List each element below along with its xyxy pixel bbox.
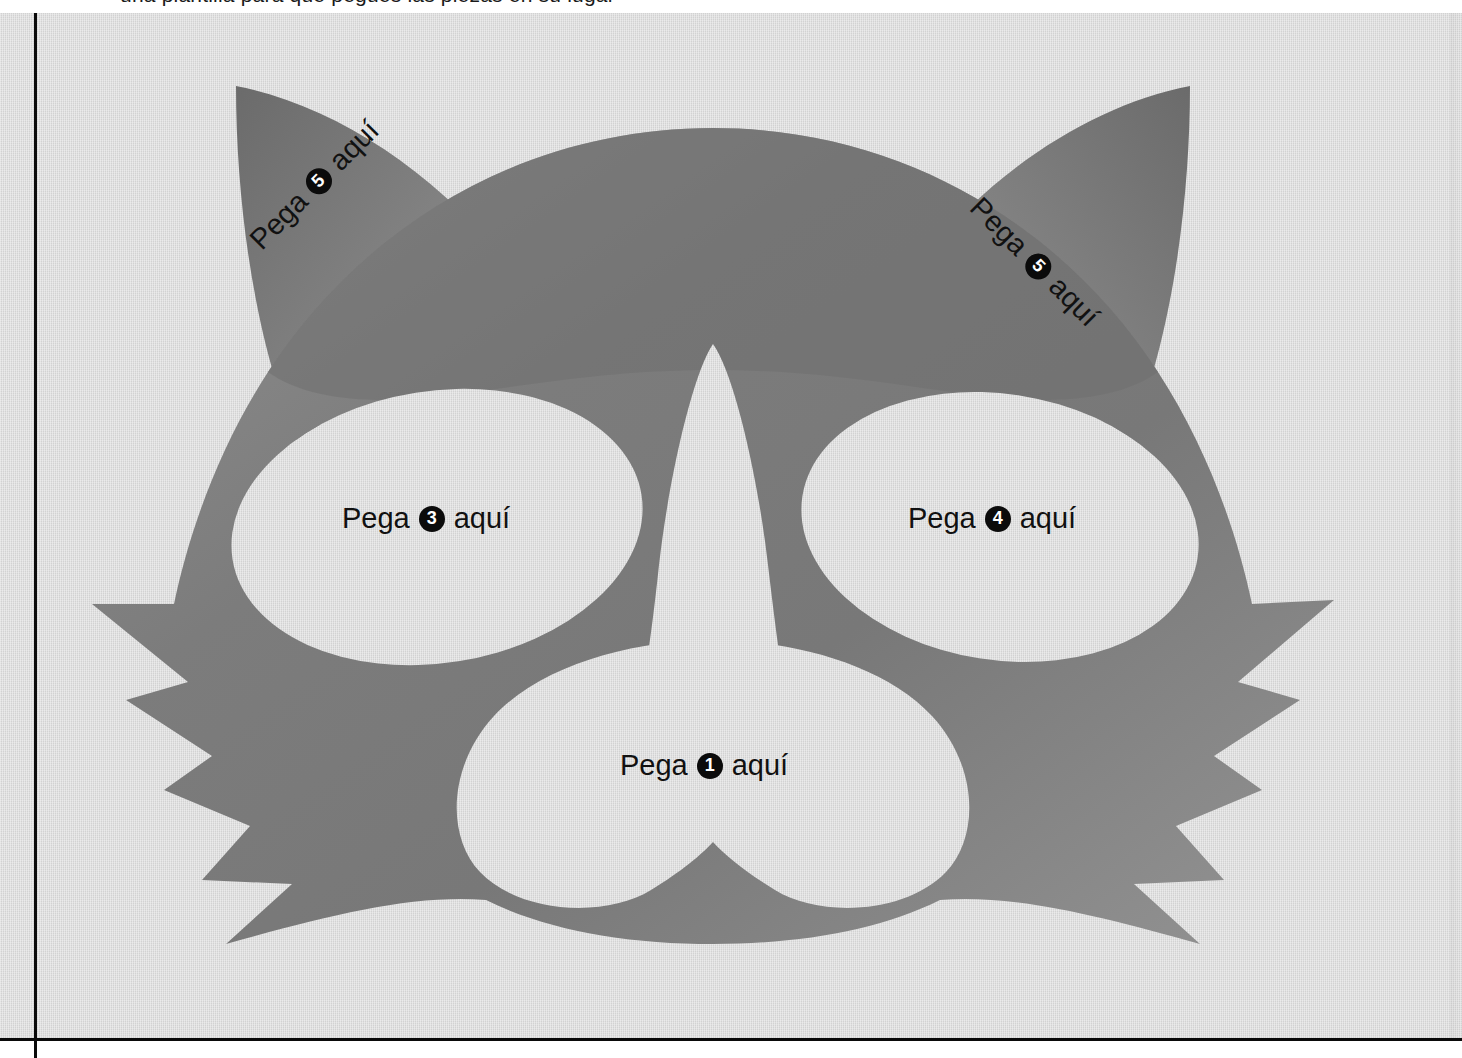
label-prefix: Pega: [620, 751, 688, 780]
page-root: una plantilla para que pegues las piezas…: [0, 0, 1462, 1058]
number-badge-1: 1: [697, 753, 723, 779]
label-paste-1: Pega 1 aquí: [620, 751, 788, 780]
cat-face-artwork: [0, 0, 1462, 1058]
top-clipped-text-strip: una plantilla para que pegues las piezas…: [0, 0, 1462, 13]
fold-line-vertical: [34, 0, 37, 1058]
label-suffix: aquí: [454, 504, 510, 533]
label-paste-3: Pega 3 aquí: [342, 504, 510, 533]
label-prefix: Pega: [342, 504, 410, 533]
label-suffix: aquí: [732, 751, 788, 780]
number-badge-4: 4: [985, 506, 1011, 532]
fold-line-horizontal: [0, 1038, 1462, 1041]
number-badge-3: 3: [419, 506, 445, 532]
clipped-instruction-line: una plantilla para que pegues las piezas…: [120, 0, 615, 7]
label-prefix: Pega: [908, 504, 976, 533]
label-suffix: aquí: [1020, 504, 1076, 533]
label-paste-4: Pega 4 aquí: [908, 504, 1076, 533]
